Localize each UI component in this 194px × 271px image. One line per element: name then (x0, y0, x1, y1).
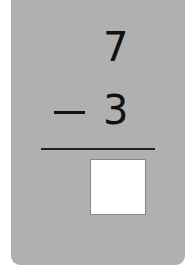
minuend: 7 (103, 27, 128, 67)
subtrahend: 3 (103, 90, 128, 130)
answer-divider (41, 148, 155, 150)
answer-input-box[interactable] (90, 159, 146, 215)
problem-card (11, 0, 185, 265)
minus-sign-icon (54, 111, 85, 114)
